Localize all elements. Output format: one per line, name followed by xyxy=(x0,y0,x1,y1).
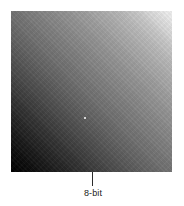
figure-8bit-gradient: 8-bit xyxy=(0,0,184,206)
center-speck-artifact xyxy=(84,117,86,119)
gradient-dither-texture xyxy=(11,11,172,172)
callout-leader-line xyxy=(92,172,93,186)
grayscale-gradient-swatch xyxy=(11,11,172,172)
figure-caption: 8-bit xyxy=(0,188,184,199)
figure-caption-text: 8-bit xyxy=(84,188,102,199)
